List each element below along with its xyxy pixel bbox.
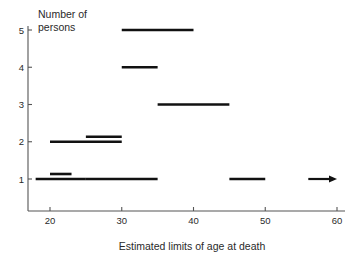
y-tick-label: 3 <box>19 99 24 110</box>
y-tick-label: 1 <box>19 174 24 185</box>
arrow-head-icon <box>329 175 337 182</box>
x-tick-label: 40 <box>188 215 199 226</box>
axis-ticks: 123452030405060 <box>19 25 343 227</box>
y-tick-label: 4 <box>19 62 24 73</box>
axes <box>28 26 345 211</box>
x-tick-label: 60 <box>332 215 343 226</box>
y-axis-label-line2: persons <box>38 21 75 33</box>
data-segments <box>36 30 337 183</box>
range-segment <box>308 175 337 182</box>
range-chart: 123452030405060 Number of persons Estima… <box>0 0 356 262</box>
x-axis-title: Estimated limits of age at death <box>119 240 266 252</box>
y-tick-label: 2 <box>19 136 24 147</box>
y-tick-label: 5 <box>19 25 24 36</box>
chart-container: 123452030405060 Number of persons Estima… <box>0 0 356 262</box>
y-axis-label-line1: Number of <box>38 8 87 20</box>
x-tick-label: 20 <box>45 215 56 226</box>
x-tick-label: 50 <box>260 215 271 226</box>
x-tick-label: 30 <box>116 215 127 226</box>
